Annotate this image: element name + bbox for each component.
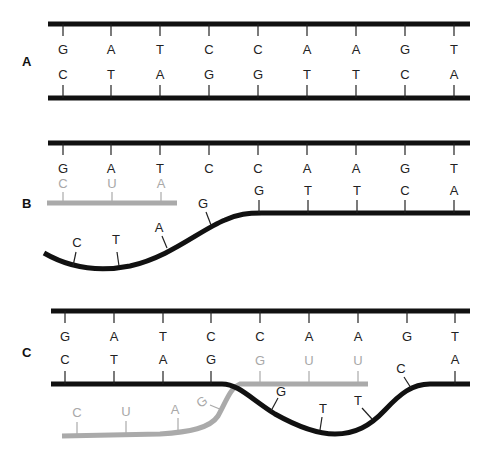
svg-text:T: T [110, 352, 118, 367]
svg-text:U: U [353, 353, 362, 368]
svg-text:A: A [303, 161, 312, 176]
svg-text:A: A [156, 67, 165, 82]
svg-text:G: G [400, 161, 410, 176]
svg-text:C: C [60, 352, 69, 367]
svg-text:T: T [112, 232, 120, 247]
svg-text:A: A [110, 329, 119, 344]
svg-text:A: A [107, 161, 116, 176]
svg-text:C: C [253, 161, 262, 176]
svg-text:T: T [156, 161, 164, 176]
svg-text:G: G [204, 67, 214, 82]
svg-text:C: C [396, 361, 405, 376]
svg-text:T: T [303, 67, 311, 82]
svg-text:U: U [304, 353, 313, 368]
svg-text:G: G [60, 329, 70, 344]
bottom-left-bases: C T A G [60, 352, 216, 367]
svg-text:C: C [58, 176, 67, 191]
rna-bases: C U A [58, 176, 165, 191]
svg-text:C: C [255, 329, 264, 344]
svg-text:A: A [352, 42, 361, 57]
paired-bottom-bases: G T T C A [254, 183, 459, 198]
svg-text:G: G [255, 353, 265, 368]
top-bases: G A T C C A A G T [58, 42, 458, 57]
rna-paired-bases: G U U [255, 353, 363, 368]
svg-text:G: G [253, 67, 263, 82]
svg-text:A: A [352, 161, 361, 176]
panel-b: B G A T C C A A G T C U [22, 143, 470, 269]
panel-label-b: B [22, 196, 31, 211]
svg-text:T: T [107, 67, 115, 82]
svg-text:T: T [319, 401, 327, 416]
svg-text:G: G [400, 42, 410, 57]
svg-text:C: C [253, 42, 262, 57]
svg-text:A: A [303, 42, 312, 57]
svg-text:G: G [58, 42, 68, 57]
svg-text:T: T [156, 42, 164, 57]
svg-text:C: C [72, 235, 81, 250]
svg-text:T: T [352, 67, 360, 82]
svg-text:T: T [450, 42, 458, 57]
svg-text:T: T [353, 183, 361, 198]
svg-text:T: T [354, 393, 362, 408]
svg-text:A: A [159, 352, 168, 367]
svg-text:C: C [206, 329, 215, 344]
svg-text:C: C [72, 405, 81, 420]
bottom-right-bases: A [451, 352, 460, 367]
svg-text:A: A [305, 329, 314, 344]
svg-text:T: T [451, 329, 459, 344]
panel-a: A G A T C C A A G T C [22, 24, 470, 98]
panel-label-a: A [22, 54, 32, 69]
svg-text:A: A [354, 329, 363, 344]
panel-c: C G A T C C A A G T G U [22, 311, 470, 436]
svg-text:G: G [198, 196, 208, 211]
svg-text:G: G [58, 161, 68, 176]
svg-text:A: A [450, 183, 459, 198]
svg-text:C: C [400, 67, 409, 82]
svg-text:A: A [171, 402, 180, 417]
svg-text:T: T [159, 329, 167, 344]
bottom-bases: C T A G G T T C A [58, 67, 458, 82]
dna-diagram: A G A T C C A A G T C [0, 0, 489, 453]
panel-label-c: C [22, 345, 32, 360]
svg-text:G: G [206, 352, 216, 367]
svg-text:A: A [107, 42, 116, 57]
svg-text:C: C [400, 183, 409, 198]
rna-tail-bases: C U A G [72, 393, 210, 420]
svg-text:G: G [193, 393, 210, 411]
svg-text:C: C [204, 42, 213, 57]
svg-text:T: T [304, 183, 312, 198]
svg-text:A: A [451, 352, 460, 367]
svg-text:U: U [107, 176, 116, 191]
top-bases: G A T C C A A G T [58, 161, 458, 176]
svg-text:G: G [276, 384, 286, 399]
svg-text:A: A [450, 67, 459, 82]
svg-text:C: C [58, 67, 67, 82]
dna-bottom-strand-displaced [51, 384, 470, 434]
top-bases: G A T C C A A G T [60, 329, 459, 344]
svg-text:A: A [157, 176, 166, 191]
dna-bottom-strand-displaced [44, 213, 470, 269]
svg-text:C: C [204, 161, 213, 176]
svg-text:G: G [254, 183, 264, 198]
svg-text:A: A [155, 220, 164, 235]
svg-text:T: T [450, 161, 458, 176]
svg-text:G: G [402, 329, 412, 344]
svg-text:U: U [121, 404, 130, 419]
